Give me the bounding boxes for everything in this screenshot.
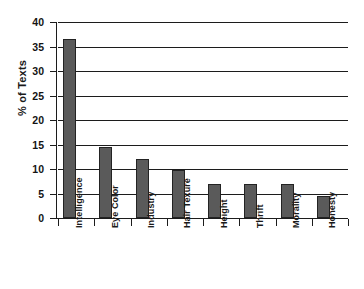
y-axis-tick xyxy=(50,145,56,146)
x-axis-tick xyxy=(348,219,349,226)
x-axis-category-label: Honesty xyxy=(327,192,337,228)
x-axis-line xyxy=(56,218,348,219)
y-axis-tick xyxy=(50,96,56,97)
x-axis-tick xyxy=(131,219,132,226)
x-axis-tick xyxy=(276,219,277,226)
x-axis-tick xyxy=(203,219,204,226)
y-axis-tick-label: 35 xyxy=(6,42,44,53)
gridline xyxy=(58,120,348,121)
gridline xyxy=(58,71,348,72)
y-axis-tick-label: 25 xyxy=(6,91,44,102)
x-axis-category-label: Industry xyxy=(146,192,156,228)
x-axis-category-label: Morality xyxy=(291,193,301,228)
x-axis-category-label: Height xyxy=(219,199,229,228)
x-axis-tick xyxy=(167,219,168,226)
gridline xyxy=(58,47,348,48)
y-axis-tick-label: 0 xyxy=(6,213,44,224)
plot-area xyxy=(58,22,348,218)
x-axis-category-label: Eye Color xyxy=(110,185,120,228)
y-axis-tick-label: 15 xyxy=(6,140,44,151)
y-axis-tick xyxy=(50,194,56,195)
gridline xyxy=(58,22,348,23)
y-axis-tick-label: 20 xyxy=(6,115,44,126)
x-axis-tick xyxy=(239,219,240,226)
x-axis-tick xyxy=(94,219,95,226)
y-axis-tick-label: 30 xyxy=(6,66,44,77)
y-axis-line xyxy=(56,22,57,219)
y-axis-tick-label: 40 xyxy=(6,17,44,28)
x-axis-category-label: Intelligence xyxy=(74,177,84,228)
x-axis-category-label: Thrift xyxy=(255,204,265,228)
x-axis-tick xyxy=(312,219,313,226)
gridline xyxy=(58,96,348,97)
y-axis-tick xyxy=(50,169,56,170)
y-axis-tick-label: 5 xyxy=(6,189,44,200)
y-axis-tick xyxy=(50,120,56,121)
bar-chart: % of Texts 0510152025303540 Intelligence… xyxy=(0,0,364,289)
x-axis-category-label: Hair Texure xyxy=(182,178,192,228)
x-axis-tick xyxy=(58,219,59,226)
y-axis-tick-label: 10 xyxy=(6,164,44,175)
y-axis-tick xyxy=(50,47,56,48)
y-axis-tick xyxy=(50,71,56,72)
y-axis-tick xyxy=(50,22,56,23)
gridline xyxy=(58,145,348,146)
